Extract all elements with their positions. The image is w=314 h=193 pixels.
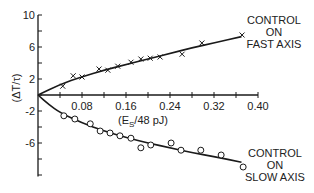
- circle-marker: [61, 113, 67, 119]
- circle-marker: [97, 128, 103, 134]
- svg-text:CONTROL: CONTROL: [247, 14, 301, 26]
- circle-marker: [198, 147, 204, 153]
- circle-marker: [148, 142, 154, 148]
- svg-text:CONTROL: CONTROL: [248, 147, 302, 159]
- x-tick-label: 0.16: [115, 100, 136, 112]
- circle-marker: [218, 152, 224, 158]
- y-axis-label: (ΔT/τ): [10, 74, 22, 103]
- x-marker: [199, 41, 204, 46]
- y-tick-label: -2: [25, 105, 35, 117]
- x-marker: [71, 73, 76, 78]
- fast-axis-fit-curve: [38, 37, 242, 95]
- axes: [38, 15, 258, 177]
- circle-marker: [107, 130, 113, 136]
- svg-text:FAST AXIS: FAST AXIS: [247, 38, 302, 50]
- y-tick-label: -6: [25, 137, 35, 149]
- x-axis-label: (ES/48 pJ): [118, 114, 168, 129]
- y-tick-label: 2: [29, 73, 35, 85]
- circle-marker: [168, 140, 174, 146]
- annotation-fast-axis: CONTROL ON FAST AXIS: [247, 14, 302, 50]
- x-marker: [240, 33, 245, 38]
- y-tick-label: 6: [29, 41, 35, 53]
- x-marker: [180, 52, 185, 57]
- x-tick-label: 0.08: [71, 100, 92, 112]
- x-marker: [97, 67, 102, 72]
- annotation-slow-axis: CONTROL ON SLOW AXIS: [245, 147, 305, 183]
- svg-text:SLOW AXIS: SLOW AXIS: [245, 171, 305, 183]
- circle-marker: [138, 145, 144, 151]
- x-tick-label: 0.24: [159, 100, 180, 112]
- svg-text:ON: ON: [267, 159, 284, 171]
- x-tick-label: 0.40: [247, 100, 268, 112]
- chart: 0.080.160.240.320.401062-2-6 (ΔT/τ) (ES/…: [0, 0, 314, 193]
- circle-marker: [178, 147, 184, 153]
- circle-marker: [87, 121, 93, 127]
- circle-marker: [117, 133, 123, 139]
- circle-marker: [240, 164, 246, 170]
- y-tick-label: 10: [23, 9, 35, 21]
- x-tick-label: 0.32: [203, 100, 224, 112]
- svg-text:ON: ON: [266, 26, 283, 38]
- tick-labels: 0.080.160.240.320.401062-2-6: [23, 9, 269, 149]
- circle-marker: [72, 116, 78, 122]
- circle-marker: [128, 135, 134, 141]
